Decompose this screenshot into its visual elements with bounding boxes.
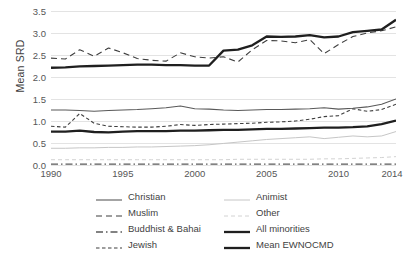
plot-area — [51, 11, 396, 165]
legend-item[interactable]: Animist — [224, 188, 384, 204]
series-line — [51, 157, 396, 160]
legend-label: Animist — [256, 191, 287, 202]
legend-item[interactable]: Mean EWNOCMD — [224, 236, 384, 252]
legend-label: All minorities — [256, 223, 310, 234]
y-tick-label: 2.5 — [22, 50, 46, 61]
legend-swatch-icon — [96, 207, 122, 217]
plot-svg — [51, 11, 396, 166]
legend-swatch-icon — [96, 223, 122, 233]
legend-item[interactable]: Buddhist & Bahai — [96, 220, 224, 236]
y-tick-label: 3.5 — [22, 6, 46, 17]
legend-label: Mean EWNOCMD — [256, 239, 334, 250]
line-chart: Mean SRD 3.53.02.52.01.51.00.50.0 Christ… — [0, 0, 410, 255]
x-tick-label: 2014 — [381, 168, 402, 179]
legend-swatch-icon — [224, 239, 250, 249]
y-tick-label: 0.5 — [22, 138, 46, 149]
series-line — [51, 104, 396, 127]
x-tick-label: 2000 — [184, 168, 205, 179]
series-line — [51, 99, 396, 111]
x-tick-label: 2010 — [328, 168, 349, 179]
legend-item[interactable]: Other — [224, 204, 384, 220]
legend-label: Christian — [128, 191, 166, 202]
legend-swatch-icon — [96, 239, 122, 249]
legend-item[interactable]: All minorities — [224, 220, 384, 236]
legend-label: Muslim — [128, 207, 158, 218]
legend-label: Buddhist & Bahai — [128, 223, 201, 234]
y-tick-label: 2.0 — [22, 72, 46, 83]
legend-label: Other — [256, 207, 280, 218]
legend-swatch-icon — [224, 223, 250, 233]
series-line — [51, 27, 396, 62]
legend-item[interactable]: Jewish — [96, 236, 224, 252]
series-line — [51, 121, 396, 133]
y-tick-label: 1.0 — [22, 116, 46, 127]
chart-legend: ChristianAnimistMuslimOtherBuddhist & Ba… — [96, 188, 386, 252]
series-line — [51, 20, 396, 68]
y-tick-label: 1.5 — [22, 94, 46, 105]
legend-item[interactable]: Christian — [96, 188, 224, 204]
y-tick-label: 3.0 — [22, 28, 46, 39]
legend-item[interactable]: Muslim — [96, 204, 224, 220]
x-tick-label: 1990 — [40, 168, 61, 179]
legend-label: Jewish — [128, 239, 157, 250]
series-line — [51, 132, 396, 149]
y-axis-tick-labels: 3.53.02.52.01.51.00.50.0 — [22, 0, 46, 180]
legend-swatch-icon — [224, 207, 250, 217]
legend-swatch-icon — [96, 191, 122, 201]
x-tick-label: 1995 — [112, 168, 133, 179]
x-tick-label: 2005 — [256, 168, 277, 179]
legend-swatch-icon — [224, 191, 250, 201]
